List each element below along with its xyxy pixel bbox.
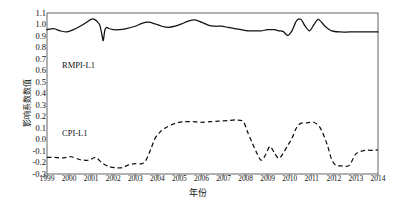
x-tick-label: 2001 — [84, 175, 99, 183]
x-tick-label: 2000 — [62, 175, 77, 183]
x-tick-label: 2008 — [238, 175, 253, 183]
x-tick-label: 2009 — [260, 175, 275, 183]
x-tick-label: 2013 — [349, 175, 364, 183]
series-label-rmpi-l1: RMPI-L1 — [62, 60, 95, 70]
x-tick-label: 2006 — [194, 175, 209, 183]
x-tick-label: 2011 — [305, 175, 320, 183]
series-line-cpi-l1 — [47, 120, 378, 168]
x-tick-label: 2014 — [371, 175, 386, 183]
series-line-rmpi-l1 — [47, 19, 378, 41]
x-tick-label: 2003 — [128, 175, 143, 183]
x-tick-label: 2004 — [150, 175, 165, 183]
x-tick-label: 1999 — [40, 175, 55, 183]
x-tick-label: 2010 — [282, 175, 297, 183]
x-axis-title: 年份 — [0, 186, 396, 199]
x-tick-label: 2002 — [106, 175, 121, 183]
x-tick-label: 2007 — [216, 175, 231, 183]
x-tick-label: 2005 — [172, 175, 187, 183]
series-label-cpi-l1: CPI-L1 — [62, 128, 88, 138]
x-tick-label: 2012 — [326, 175, 341, 183]
chart-container: 影响系数数值 1.11.00.90.80.70.60.50.40.30.20.1… — [0, 0, 396, 206]
